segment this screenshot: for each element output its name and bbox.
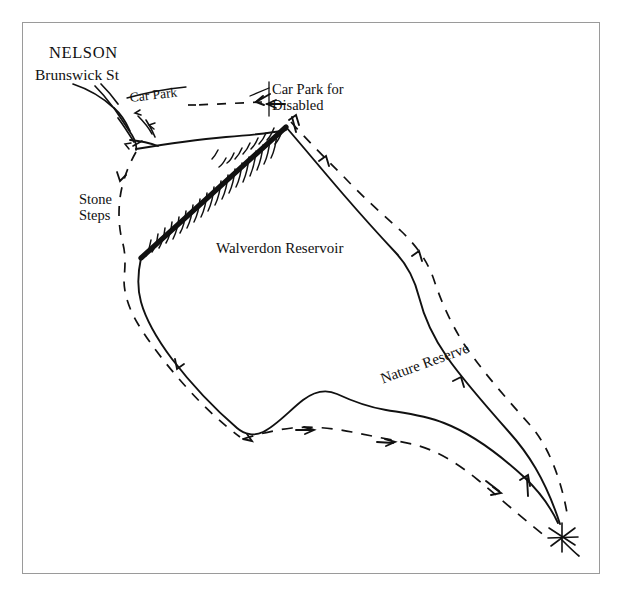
label-brunswick-st: Brunswick St xyxy=(35,67,119,84)
label-walverdon-reservoir: Walverdon Reservoir xyxy=(216,240,344,256)
label-stone-steps-line2: Steps xyxy=(79,208,112,224)
label-car-park-for-disabled-line2: Disabled xyxy=(272,98,344,114)
label-stone-steps: Stone Steps xyxy=(79,192,112,223)
sketch-map-figure: NELSON Brunswick St Car Park Car Park fo… xyxy=(0,0,621,598)
label-car-park-for-disabled-line1: Car Park for xyxy=(272,82,344,98)
label-car-park-for-disabled: Car Park for Disabled xyxy=(272,82,344,113)
label-stone-steps-line1: Stone xyxy=(79,192,112,208)
label-nelson: NELSON xyxy=(49,44,118,62)
